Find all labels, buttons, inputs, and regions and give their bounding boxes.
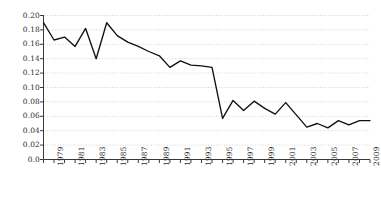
x-axis-tick-label: 1985 bbox=[120, 146, 127, 166]
x-axis-tick-label: 1987 bbox=[141, 146, 148, 166]
x-axis-tick-label: 2001 bbox=[289, 146, 296, 166]
x-axis-tick-label: 1999 bbox=[268, 146, 275, 166]
x-axis-tick-label: 1981 bbox=[78, 146, 85, 166]
x-axis-tick-label: 2007 bbox=[352, 146, 359, 166]
x-axis-tick-label: 1991 bbox=[184, 146, 191, 166]
x-axis-tick-label: 1997 bbox=[247, 146, 254, 166]
x-axis-tick-label: 1993 bbox=[205, 146, 212, 166]
x-axis-tick-label: 2003 bbox=[310, 146, 317, 166]
x-axis-tick-label: 1995 bbox=[226, 146, 233, 166]
x-axis-tick-label: 1979 bbox=[57, 146, 64, 166]
x-axis-tick-label: 1989 bbox=[163, 146, 170, 166]
x-axis-tick-label: 1983 bbox=[99, 146, 106, 166]
x-axis-tick-label: 2009 bbox=[373, 146, 380, 166]
x-axis-tick-label: 2005 bbox=[331, 146, 338, 166]
